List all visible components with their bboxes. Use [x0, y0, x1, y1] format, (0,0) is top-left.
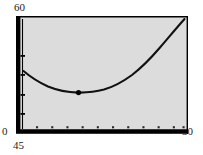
- x-tick: [82, 126, 84, 128]
- y-tick: [21, 113, 26, 115]
- plot-background: [16, 16, 188, 134]
- axis-label-x-min: 45: [13, 140, 24, 151]
- graph-figure: 60 0 45 30 (9, 50): [0, 0, 203, 155]
- x-tick: [36, 126, 38, 128]
- x-tick: [127, 126, 129, 128]
- x-tick: [142, 126, 144, 128]
- x-tick: [66, 126, 68, 128]
- minimum-point-marker: [76, 90, 81, 95]
- x-tick: [51, 126, 53, 128]
- x-tick: [173, 126, 175, 128]
- x-tick: [112, 126, 114, 128]
- axis-label-y-max: 60: [14, 2, 25, 13]
- y-tick: [21, 55, 26, 57]
- y-tick: [21, 94, 26, 96]
- y-tick: [21, 74, 26, 76]
- x-tick: [97, 126, 99, 128]
- plot-area: [16, 16, 188, 134]
- x-tick: [158, 126, 160, 128]
- axis-label-y-min: 0: [2, 126, 8, 137]
- x-tick: [183, 126, 185, 128]
